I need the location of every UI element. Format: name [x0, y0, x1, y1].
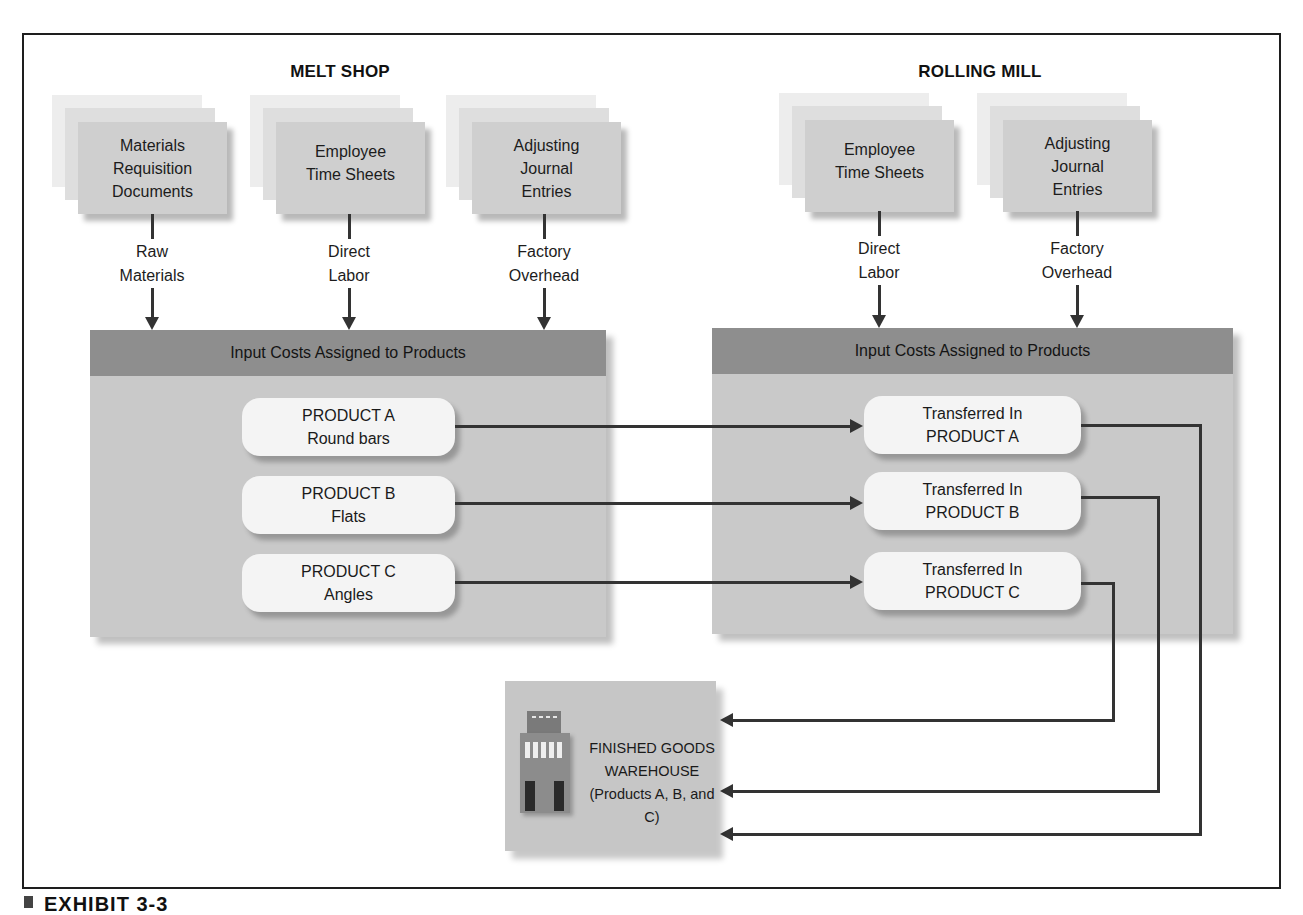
- melt-shop-title: MELT SHOP: [230, 62, 450, 82]
- output-line-a-bottom: [732, 833, 1202, 836]
- output-line-a-top: [1081, 424, 1202, 427]
- arrow-down-icon: [145, 317, 159, 330]
- transferred-in-product-b-pill: Transferred In PRODUCT B: [864, 472, 1081, 530]
- transfer-line-b: [455, 502, 851, 505]
- output-line-c-vertical: [1112, 582, 1115, 722]
- arrow-down-icon: [872, 315, 886, 328]
- doc-label-line: Time Sheets: [306, 163, 395, 186]
- doc-card-front: Employee Time Sheets: [805, 120, 954, 212]
- output-line-c-bottom: [732, 719, 1115, 722]
- exhibit-caption: EXHIBIT 3-3: [44, 893, 168, 915]
- connector-line: [878, 285, 881, 317]
- connector-line: [1076, 211, 1079, 236]
- connector-line: [348, 288, 351, 318]
- doc-label-line: Requisition: [112, 157, 193, 180]
- building-icon: [520, 711, 572, 813]
- doc-label-line: Employee: [306, 140, 395, 163]
- cost-label-direct-labor-melt: Direct Labor: [289, 240, 409, 288]
- doc-label-line: Time Sheets: [835, 161, 924, 184]
- connector-line: [543, 214, 546, 239]
- doc-card-front: Adjusting Journal Entries: [1003, 120, 1152, 212]
- doc-employee-time-sheets-melt: Employee Time Sheets: [250, 95, 440, 230]
- product-c-pill: PRODUCT C Angles: [242, 554, 455, 612]
- doc-label-line: Documents: [112, 180, 193, 203]
- connector-line: [151, 214, 154, 239]
- warehouse-label: FINISHED GOODS WAREHOUSE (Products A, B,…: [587, 737, 717, 829]
- doc-label-line: Adjusting: [1045, 132, 1111, 155]
- connector-line: [1076, 285, 1079, 317]
- finished-goods-warehouse: FINISHED GOODS WAREHOUSE (Products A, B,…: [505, 681, 716, 851]
- doc-card-front: Materials Requisition Documents: [78, 122, 227, 214]
- arrow-right-icon: [850, 419, 863, 433]
- transfer-line-a: [455, 425, 851, 428]
- arrow-down-icon: [537, 317, 551, 330]
- doc-label-line: Entries: [1045, 178, 1111, 201]
- arrow-left-icon: [720, 827, 733, 841]
- output-line-b-vertical: [1157, 496, 1160, 793]
- connector-line: [543, 288, 546, 318]
- output-line-b-bottom: [732, 790, 1160, 793]
- connector-line: [878, 211, 881, 236]
- arrow-left-icon: [720, 713, 733, 727]
- arrow-down-icon: [1070, 315, 1084, 328]
- doc-adjusting-journal-entries-rolling: Adjusting Journal Entries: [977, 93, 1167, 228]
- melt-shop-box-header: Input Costs Assigned to Products: [90, 330, 606, 376]
- rolling-mill-box-header: Input Costs Assigned to Products: [712, 328, 1233, 374]
- transferred-in-product-a-pill: Transferred In PRODUCT A: [864, 396, 1081, 454]
- product-a-pill: PRODUCT A Round bars: [242, 398, 455, 456]
- cost-label-factory-overhead-rolling: Factory Overhead: [1017, 237, 1137, 285]
- doc-label-line: Materials: [112, 134, 193, 157]
- doc-adjusting-journal-entries-melt: Adjusting Journal Entries: [446, 95, 636, 230]
- output-line-b-top: [1081, 496, 1160, 499]
- cost-label-direct-labor-rolling: Direct Labor: [819, 237, 939, 285]
- output-line-c-top: [1081, 582, 1115, 585]
- cost-label-raw-materials: Raw Materials: [92, 240, 212, 288]
- connector-line: [348, 214, 351, 239]
- doc-label-line: Entries: [514, 180, 580, 203]
- doc-materials-requisition: Materials Requisition Documents: [52, 95, 242, 230]
- doc-label-line: Employee: [835, 138, 924, 161]
- doc-card-front: Employee Time Sheets: [276, 122, 425, 214]
- arrow-down-icon: [342, 317, 356, 330]
- arrow-right-icon: [850, 496, 863, 510]
- arrow-left-icon: [720, 784, 733, 798]
- caption-marker: [24, 896, 33, 908]
- doc-employee-time-sheets-rolling: Employee Time Sheets: [779, 93, 969, 228]
- doc-label-line: Journal: [1045, 155, 1111, 178]
- doc-card-front: Adjusting Journal Entries: [472, 122, 621, 214]
- rolling-mill-title: ROLLING MILL: [860, 62, 1100, 82]
- transfer-line-c: [455, 581, 851, 584]
- cost-label-factory-overhead-melt: Factory Overhead: [484, 240, 604, 288]
- doc-label-line: Journal: [514, 157, 580, 180]
- output-line-a-vertical: [1199, 424, 1202, 836]
- arrow-right-icon: [850, 575, 863, 589]
- transferred-in-product-c-pill: Transferred In PRODUCT C: [864, 552, 1081, 610]
- doc-label-line: Adjusting: [514, 134, 580, 157]
- product-b-pill: PRODUCT B Flats: [242, 476, 455, 534]
- connector-line: [151, 288, 154, 318]
